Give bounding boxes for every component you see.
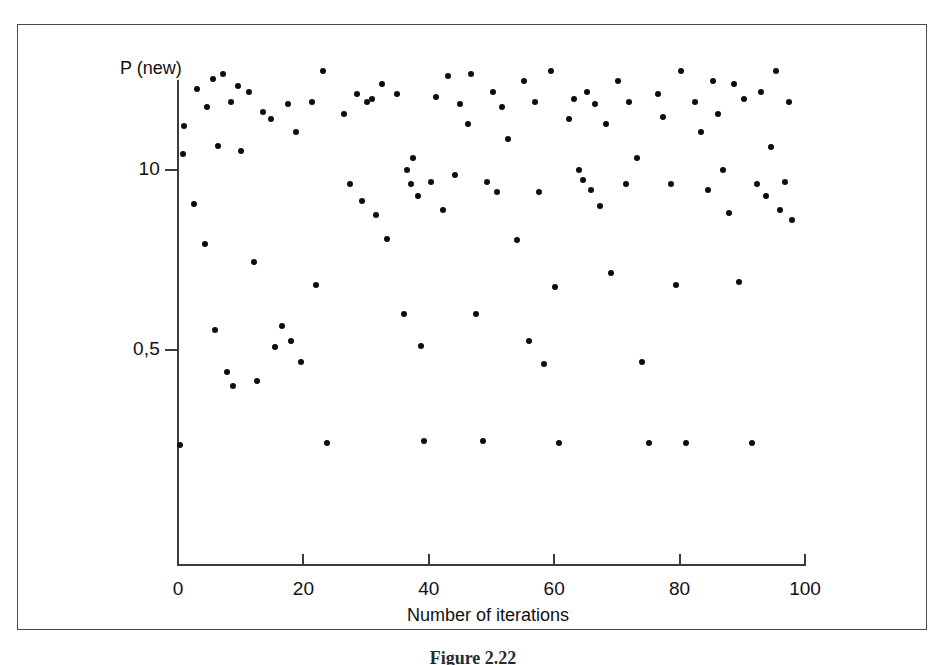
data-point bbox=[494, 189, 500, 195]
data-point bbox=[246, 89, 252, 95]
data-point bbox=[505, 136, 511, 142]
x-tick-mark bbox=[302, 554, 304, 566]
data-point bbox=[260, 109, 266, 115]
data-point bbox=[440, 207, 446, 213]
data-point bbox=[741, 96, 747, 102]
x-tick-mark bbox=[177, 554, 179, 566]
data-point bbox=[777, 207, 783, 213]
data-point bbox=[597, 203, 603, 209]
x-tick-label: 80 bbox=[645, 578, 715, 600]
x-tick-mark bbox=[679, 554, 681, 566]
y-tick-mark bbox=[165, 349, 178, 351]
data-point bbox=[394, 91, 400, 97]
data-point bbox=[603, 121, 609, 127]
data-point bbox=[373, 212, 379, 218]
y-tick-label: 10 bbox=[100, 158, 160, 180]
data-point bbox=[415, 193, 421, 199]
data-point bbox=[768, 144, 774, 150]
data-point bbox=[452, 172, 458, 178]
data-point bbox=[379, 81, 385, 87]
data-point bbox=[758, 89, 764, 95]
data-point bbox=[369, 96, 375, 102]
data-point bbox=[584, 89, 590, 95]
data-point bbox=[194, 86, 200, 92]
data-point bbox=[445, 73, 451, 79]
figure-caption: Figure 2.22 bbox=[0, 648, 946, 665]
data-point bbox=[354, 91, 360, 97]
x-tick-mark bbox=[804, 554, 806, 566]
data-point bbox=[320, 68, 326, 74]
data-point bbox=[220, 71, 226, 77]
data-point bbox=[736, 279, 742, 285]
data-point bbox=[608, 270, 614, 276]
data-point bbox=[552, 284, 558, 290]
data-point bbox=[789, 217, 795, 223]
data-point bbox=[230, 383, 236, 389]
data-point bbox=[180, 151, 186, 157]
data-point bbox=[313, 282, 319, 288]
x-tick-label: 20 bbox=[268, 578, 338, 600]
data-point bbox=[678, 68, 684, 74]
data-point bbox=[181, 123, 187, 129]
data-point bbox=[749, 440, 755, 446]
data-point bbox=[754, 181, 760, 187]
data-point bbox=[683, 440, 689, 446]
x-tick-mark bbox=[428, 554, 430, 566]
data-point bbox=[410, 155, 416, 161]
data-point bbox=[421, 438, 427, 444]
data-point bbox=[177, 442, 183, 448]
data-point bbox=[576, 167, 582, 173]
data-point bbox=[433, 94, 439, 100]
data-point bbox=[726, 210, 732, 216]
data-point bbox=[705, 187, 711, 193]
data-point bbox=[639, 359, 645, 365]
data-point bbox=[347, 181, 353, 187]
data-point bbox=[428, 179, 434, 185]
y-tick-label: 0,5 bbox=[100, 338, 160, 360]
data-point bbox=[215, 143, 221, 149]
data-point bbox=[404, 167, 410, 173]
data-point bbox=[532, 99, 538, 105]
data-point bbox=[473, 311, 479, 317]
data-point bbox=[228, 99, 234, 105]
data-point bbox=[499, 104, 505, 110]
data-point bbox=[634, 155, 640, 161]
data-point bbox=[763, 193, 769, 199]
data-point bbox=[465, 121, 471, 127]
data-point bbox=[480, 438, 486, 444]
data-point bbox=[698, 129, 704, 135]
y-axis-line bbox=[177, 80, 179, 566]
data-point bbox=[514, 237, 520, 243]
data-point bbox=[571, 96, 577, 102]
data-point bbox=[626, 99, 632, 105]
data-point bbox=[720, 167, 726, 173]
data-point bbox=[238, 148, 244, 154]
data-point bbox=[384, 236, 390, 242]
data-point bbox=[710, 78, 716, 84]
x-axis-line bbox=[177, 564, 806, 566]
data-point bbox=[408, 181, 414, 187]
data-point bbox=[556, 440, 562, 446]
data-point bbox=[298, 359, 304, 365]
x-tick-label: 0 bbox=[143, 578, 213, 600]
data-point bbox=[293, 129, 299, 135]
data-point bbox=[773, 68, 779, 74]
y-axis-title: P (new) bbox=[120, 58, 182, 79]
data-point bbox=[224, 369, 230, 375]
data-point bbox=[285, 101, 291, 107]
data-point bbox=[468, 71, 474, 77]
data-point bbox=[490, 89, 496, 95]
data-point bbox=[251, 259, 257, 265]
data-point bbox=[309, 99, 315, 105]
data-point bbox=[268, 116, 274, 122]
data-point bbox=[204, 104, 210, 110]
x-axis-title-text: Number of iterations bbox=[407, 605, 569, 625]
y-tick-mark bbox=[165, 169, 178, 171]
data-point bbox=[521, 78, 527, 84]
data-point bbox=[418, 343, 424, 349]
data-point bbox=[541, 361, 547, 367]
data-point bbox=[202, 241, 208, 247]
data-point bbox=[580, 177, 586, 183]
data-point bbox=[548, 68, 554, 74]
data-point bbox=[536, 189, 542, 195]
